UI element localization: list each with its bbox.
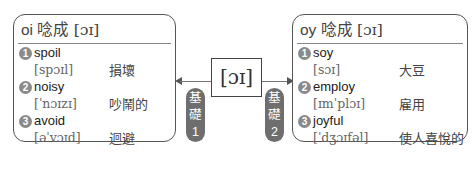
title-ipa: [ɔɪ] <box>357 21 383 39</box>
meaning: 雇用 <box>399 96 425 113</box>
word: employ <box>313 79 355 95</box>
list-item: 2 noisy [ˈnɔɪzɪ] 吵鬧的 <box>14 79 175 113</box>
divider <box>297 43 463 44</box>
badge-char: 基 <box>265 90 284 107</box>
title-ipa: [ɔɪ] <box>74 21 100 39</box>
word: noisy <box>34 79 64 95</box>
title-text: oy 唸成 <box>300 21 357 38</box>
number-circle-icon: 3 <box>298 115 311 128</box>
meaning: 吵鬧的 <box>109 96 148 113</box>
meaning: 損壞 <box>109 62 135 79</box>
center-ipa-box: [ɔɪ] <box>211 58 262 97</box>
number-circle-icon: 2 <box>19 81 32 94</box>
word: spoil <box>34 45 61 61</box>
divider <box>18 43 171 44</box>
list-item: 1 soy [sɔɪ] 大豆 <box>293 45 467 79</box>
card-title: oy 唸成 [ɔɪ] <box>293 15 467 41</box>
connector-line <box>180 81 211 82</box>
oy-spelling-card: oy 唸成 [ɔɪ] 1 soy [sɔɪ] 大豆 2 employ [ɪmˈp… <box>292 14 468 142</box>
pronunciation: [spɔɪl] <box>34 61 73 78</box>
pronunciation: [sɔɪ] <box>313 61 340 78</box>
title-text: oi 唸成 <box>21 21 74 38</box>
badge-char: 基 <box>186 90 205 107</box>
pronunciation: [əˈvɔɪd] <box>34 129 81 146</box>
word: avoid <box>34 113 65 129</box>
number-circle-icon: 1 <box>298 47 311 60</box>
list-item: 3 avoid [əˈvɔɪd] 迴避 <box>14 113 175 147</box>
pronunciation: [ˈnɔɪzɪ] <box>34 95 77 112</box>
list-item: 2 employ [ɪmˈplɔɪ] 雇用 <box>293 79 467 113</box>
oi-spelling-card: oi 唸成 [ɔɪ] 1 spoil [spɔɪl] 損壞 2 noisy [ˈ… <box>13 14 176 142</box>
card-title: oi 唸成 [ɔɪ] <box>14 15 175 41</box>
badge-number: 2 <box>265 124 284 141</box>
pronunciation: [ɪmˈplɔɪ] <box>313 95 365 112</box>
connector-line <box>262 81 288 82</box>
pronunciation: [ˈdʒɔɪfəl] <box>313 129 368 146</box>
word: soy <box>313 45 333 61</box>
word: joyful <box>313 113 343 129</box>
badge-char: 礎 <box>186 107 205 124</box>
list-item: 3 joyful [ˈdʒɔɪfəl] 使人喜悅的 <box>293 113 467 147</box>
level-badge-2: 基 礎 2 <box>265 88 284 142</box>
badge-char: 礎 <box>265 107 284 124</box>
meaning: 使人喜悅的 <box>399 130 464 147</box>
meaning: 迴避 <box>109 130 135 147</box>
badge-number: 1 <box>186 124 205 141</box>
number-circle-icon: 1 <box>19 47 32 60</box>
number-circle-icon: 3 <box>19 115 32 128</box>
level-badge-1: 基 礎 1 <box>186 88 205 142</box>
list-item: 1 spoil [spɔɪl] 損壞 <box>14 45 175 79</box>
meaning: 大豆 <box>399 62 425 79</box>
number-circle-icon: 2 <box>298 81 311 94</box>
